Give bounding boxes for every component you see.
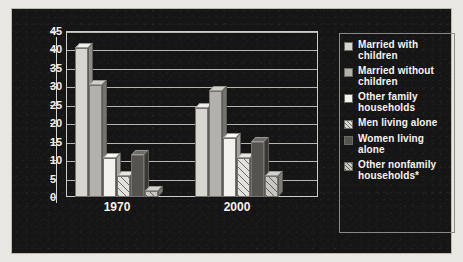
- legend-item-label: Married with children: [358, 39, 450, 61]
- bar-series-container: [67, 31, 317, 198]
- bar: [209, 91, 222, 197]
- bar-front-face: [265, 176, 278, 197]
- bar: [195, 108, 208, 197]
- bar-front-face: [75, 48, 88, 197]
- bar-front-face: [195, 108, 208, 197]
- legend-swatch-icon: [344, 94, 353, 103]
- legend-item[interactable]: Other family households: [344, 91, 450, 113]
- bar-front-face: [89, 85, 102, 197]
- legend-item-label: Men living alone: [358, 117, 437, 128]
- x-axis-tick-label: 1970: [104, 200, 131, 214]
- legend-swatch-icon: [344, 68, 353, 77]
- bar: [103, 158, 116, 197]
- legend-item-label: Other nonfamily households*: [358, 159, 450, 181]
- bar: [251, 142, 264, 197]
- y-axis-tick-mark: [50, 179, 57, 180]
- legend-item[interactable]: Married without children: [344, 65, 450, 87]
- y-axis-tick-mark: [50, 31, 57, 32]
- bar: [75, 48, 88, 197]
- y-axis-tick-mark: [50, 86, 57, 87]
- bar-side-face: [278, 170, 283, 197]
- bar: [117, 176, 130, 197]
- y-axis-tick-mark: [50, 105, 57, 106]
- chart-legend: Married with childrenMarried without chi…: [339, 33, 455, 233]
- bar: [265, 176, 278, 197]
- bar-front-face: [237, 158, 250, 197]
- chart-page: 051015202530354045 19702000 Married with…: [0, 0, 463, 262]
- x-axis-tick-label: 2000: [224, 200, 251, 214]
- legend-item[interactable]: Other nonfamily households*: [344, 159, 450, 181]
- legend-swatch-icon: [344, 120, 353, 129]
- legend-item-label: Married without children: [358, 65, 450, 87]
- y-axis-tick-mark: [50, 142, 57, 143]
- bar-front-face: [145, 191, 158, 197]
- legend-item-label: Women living alone: [358, 133, 450, 155]
- bar-front-face: [223, 138, 236, 197]
- y-axis-tick-mark: [50, 160, 57, 161]
- bar: [145, 191, 158, 197]
- legend-swatch-icon: [344, 162, 353, 171]
- legend-item[interactable]: Married with children: [344, 39, 450, 61]
- bar: [223, 138, 236, 197]
- y-axis-tick-mark: [50, 123, 57, 124]
- y-axis-tick-mark: [50, 68, 57, 69]
- bar-front-face: [131, 155, 144, 197]
- bar: [131, 155, 144, 197]
- bar-front-face: [251, 142, 264, 197]
- legend-item-label: Other family households: [358, 91, 450, 113]
- bar-front-face: [209, 91, 222, 197]
- legend-swatch-icon: [344, 136, 353, 145]
- chart-panel: 051015202530354045 19702000 Married with…: [12, 9, 451, 253]
- y-axis-tick-mark: [50, 197, 57, 198]
- legend-swatch-icon: [344, 42, 353, 51]
- bar-front-face: [103, 158, 116, 197]
- bar: [237, 158, 250, 197]
- bar-front-face: [117, 176, 130, 197]
- plot-area: 051015202530354045 19702000: [50, 31, 318, 212]
- bar: [89, 85, 102, 197]
- legend-item[interactable]: Women living alone: [344, 133, 450, 155]
- y-axis-tick-mark: [50, 49, 57, 50]
- legend-item[interactable]: Men living alone: [344, 117, 450, 129]
